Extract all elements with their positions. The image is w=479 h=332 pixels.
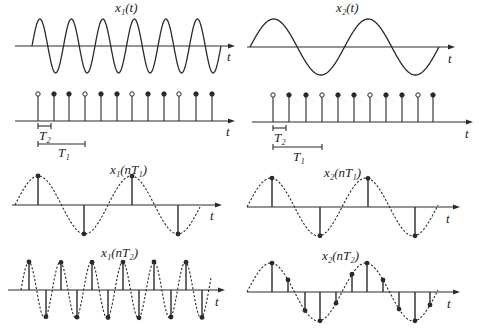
sample-dot bbox=[146, 92, 150, 96]
title-x2-nT2: x₂(nT₂) bbox=[322, 249, 359, 262]
open-sample-dot bbox=[320, 93, 324, 97]
sample-dot bbox=[304, 93, 308, 97]
sample-dot bbox=[413, 318, 418, 323]
sample-dot bbox=[431, 93, 435, 97]
axis-label-t: t bbox=[227, 50, 231, 63]
axis-label-t: t bbox=[448, 52, 452, 65]
sample-dot bbox=[152, 260, 157, 265]
sample-dot bbox=[318, 233, 323, 238]
title-x2-t: x₂(t) bbox=[336, 1, 359, 14]
sample-dot bbox=[162, 92, 166, 96]
open-sample-dot bbox=[271, 93, 275, 97]
axis-label-t: t bbox=[215, 295, 219, 308]
axis-label-t: t bbox=[446, 212, 450, 225]
sample-dot bbox=[82, 232, 87, 237]
sample-dot bbox=[287, 93, 291, 97]
arrow-icon bbox=[215, 203, 222, 208]
sample-dot bbox=[106, 315, 111, 320]
sample-dot bbox=[286, 278, 291, 283]
sample-dot bbox=[184, 260, 189, 265]
sample-dot bbox=[350, 272, 355, 277]
period-label-T2: T₂ bbox=[39, 129, 51, 142]
sample-dot bbox=[52, 92, 56, 96]
arrow-icon bbox=[228, 44, 235, 49]
sample-dot bbox=[210, 92, 214, 96]
sample-dot bbox=[384, 93, 388, 97]
sample-dot bbox=[428, 303, 433, 308]
sample-dot bbox=[176, 232, 181, 237]
sample-dot bbox=[44, 314, 49, 319]
sample-dot bbox=[270, 261, 275, 266]
sample-dot bbox=[334, 301, 339, 306]
open-sample-dot bbox=[130, 92, 134, 96]
open-sample-dot bbox=[83, 92, 87, 96]
sample-dot bbox=[194, 92, 198, 96]
arrow-icon bbox=[453, 290, 460, 295]
sample-dot bbox=[336, 93, 340, 97]
title-x1-nT2: x₁(nT₂) bbox=[101, 246, 138, 259]
open-sample-dot bbox=[416, 93, 420, 97]
sample-dot bbox=[352, 93, 356, 97]
sample-dot bbox=[413, 233, 418, 238]
axis-label-t: t bbox=[226, 125, 230, 138]
sample-dot bbox=[59, 260, 64, 265]
sample-dot bbox=[90, 260, 95, 265]
arrow-icon bbox=[453, 205, 460, 210]
sample-dot bbox=[36, 174, 41, 179]
sample-dot bbox=[303, 308, 308, 313]
period-label-T2: T₂ bbox=[274, 131, 286, 144]
sample-dot bbox=[67, 92, 71, 96]
sample-dot bbox=[27, 260, 32, 265]
sample-dot bbox=[397, 307, 402, 312]
sampling-diagram: x₁(t) x₂(t) x₁(nT₁) x₂(nT₁) x₁(nT₂) x₂(n… bbox=[0, 0, 479, 332]
sample-dot bbox=[381, 278, 386, 283]
sample-dot bbox=[99, 92, 103, 96]
axis-label-t: t bbox=[210, 209, 214, 222]
period-label-T1: T₁ bbox=[293, 150, 305, 163]
sample-dot bbox=[137, 315, 142, 320]
sample-dot bbox=[318, 318, 323, 323]
title-x2-nT1: x₂(nT₁) bbox=[324, 166, 361, 179]
axis-label-t: t bbox=[465, 127, 469, 140]
arrow-icon bbox=[448, 45, 455, 50]
open-sample-dot bbox=[36, 92, 40, 96]
sample-dot bbox=[400, 93, 404, 97]
title-x1-nT1: x₁(nT₁) bbox=[110, 163, 147, 176]
arrow-icon bbox=[466, 120, 473, 125]
period-label-T1: T₁ bbox=[58, 146, 70, 159]
sample-dot bbox=[121, 260, 126, 265]
sample-dot bbox=[75, 315, 80, 320]
title-x1-t: x₁(t) bbox=[115, 1, 138, 14]
open-sample-dot bbox=[177, 92, 181, 96]
sample-dot bbox=[366, 176, 371, 181]
sample-dot bbox=[169, 315, 174, 320]
sample-dot bbox=[115, 92, 119, 96]
arrow-icon bbox=[228, 119, 235, 124]
arrow-icon bbox=[218, 288, 225, 293]
sample-dot bbox=[270, 176, 275, 181]
diagram-canvas bbox=[0, 0, 479, 332]
sample-dot bbox=[365, 261, 370, 266]
open-sample-dot bbox=[368, 93, 372, 97]
sample-dot bbox=[200, 315, 205, 320]
axis-label-t: t bbox=[447, 297, 451, 310]
